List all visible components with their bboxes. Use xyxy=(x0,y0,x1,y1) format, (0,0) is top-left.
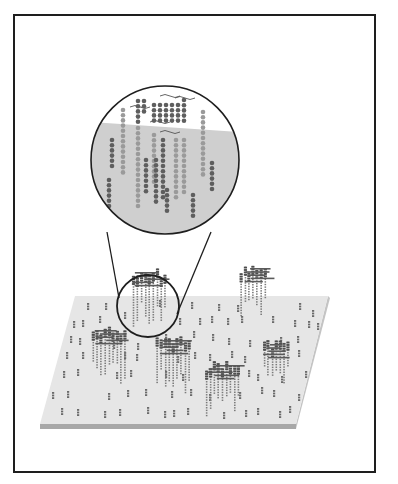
probe-spot xyxy=(77,409,79,416)
probe-spot xyxy=(145,389,147,396)
probe-spot xyxy=(77,369,79,376)
magnified-probe-column xyxy=(142,99,147,114)
probe-spot xyxy=(63,371,65,378)
probe-spot xyxy=(298,394,300,401)
probe-spot xyxy=(66,352,68,359)
probe-spot xyxy=(124,352,126,359)
magnified-probe-column xyxy=(182,138,187,195)
probe-spot xyxy=(127,390,129,397)
chip-plate xyxy=(40,296,330,429)
microarray-figure xyxy=(0,0,398,484)
probe-spot xyxy=(249,340,251,347)
probe-spot xyxy=(137,343,139,350)
probe-spot xyxy=(223,412,225,419)
plate-top-face xyxy=(40,296,328,424)
probe-spot xyxy=(199,318,201,325)
probe-spot xyxy=(136,354,138,361)
probe-spot xyxy=(87,303,89,310)
probe-spot xyxy=(312,310,314,317)
probe-spot xyxy=(211,316,213,323)
probe-spot xyxy=(108,393,110,400)
probe-spot xyxy=(241,316,243,323)
probe-spot xyxy=(119,409,121,416)
probe-spot xyxy=(130,370,132,377)
probe-spot xyxy=(279,411,281,418)
probe-spot xyxy=(67,391,69,398)
probe-spot xyxy=(231,351,233,358)
plate-front-edge xyxy=(40,424,296,429)
probe-spot xyxy=(218,304,220,311)
probe-spot xyxy=(61,408,63,415)
probe-spot xyxy=(104,411,106,418)
probe-spot xyxy=(297,336,299,343)
probe-spot xyxy=(147,407,149,414)
probe-spot xyxy=(165,371,167,378)
probe-spot xyxy=(294,320,296,327)
probe-spot xyxy=(298,350,300,357)
probe-spot xyxy=(179,318,181,325)
probe-spot xyxy=(308,321,310,328)
probe-spot xyxy=(261,387,263,394)
probe-spot xyxy=(187,408,189,415)
probe-spot xyxy=(82,320,84,327)
probe-spot xyxy=(209,354,211,361)
probe-spot xyxy=(73,321,75,328)
probe-spot xyxy=(182,374,184,381)
probe-spot xyxy=(191,302,193,309)
probe-spot xyxy=(124,312,126,319)
probe-spot xyxy=(305,371,307,378)
probe-spot xyxy=(194,352,196,359)
probe-spot xyxy=(228,338,230,345)
probe-spot xyxy=(245,410,247,417)
probe-spot xyxy=(52,392,54,399)
connector-line xyxy=(107,232,119,298)
probe-spot xyxy=(237,305,239,312)
magnified-probe-column xyxy=(136,99,141,124)
probe-spot xyxy=(239,392,241,399)
probe-spot xyxy=(116,372,118,379)
probe-spot xyxy=(159,300,161,307)
probe-spot xyxy=(70,336,72,343)
probe-spot xyxy=(317,323,319,330)
probe-spot xyxy=(227,318,229,325)
probe-spot xyxy=(193,331,195,338)
probe-spot xyxy=(190,389,192,396)
probe-spot xyxy=(212,334,214,341)
probe-spot xyxy=(105,303,107,310)
probe-spot xyxy=(244,356,246,363)
probe-spot xyxy=(171,391,173,398)
microarray-illustration xyxy=(0,0,398,484)
magnified-probe-column xyxy=(154,158,159,204)
probe-spot xyxy=(299,303,301,310)
probe-spot xyxy=(273,390,275,397)
probe-spot xyxy=(164,411,166,418)
probe-spot xyxy=(99,316,101,323)
probe-spot xyxy=(257,374,259,381)
magnified-probe-column xyxy=(182,98,187,123)
probe-spot xyxy=(82,352,84,359)
probe-spot xyxy=(173,410,175,417)
probe-spot xyxy=(248,370,250,377)
probe-spot xyxy=(289,406,291,413)
probe-spot xyxy=(257,408,259,415)
probe-spot xyxy=(272,316,274,323)
magnified-probe-column xyxy=(165,188,170,213)
probe-spot xyxy=(280,337,282,344)
magnified-view xyxy=(91,86,239,234)
magnified-probe-column xyxy=(191,193,196,218)
probe-spot xyxy=(79,338,81,345)
probe-spot xyxy=(281,376,283,383)
